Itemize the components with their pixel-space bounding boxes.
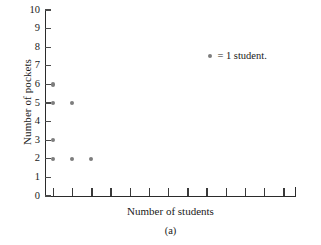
y-axis-tick-label: 1 [18, 172, 40, 183]
x-axis-tick [187, 188, 189, 196]
data-point [70, 157, 74, 161]
x-axis-tick [226, 188, 228, 196]
y-axis-tick [45, 102, 51, 103]
data-point [51, 101, 55, 105]
x-axis-tick [264, 188, 266, 196]
data-point [51, 82, 55, 86]
data-point [51, 138, 55, 142]
legend-dot-icon [208, 54, 212, 58]
y-axis-tick [45, 195, 51, 196]
y-axis-tick [45, 84, 51, 85]
data-point [51, 157, 55, 161]
figure-dot-plot: 012345678910 = 1 student. Number of pock… [0, 0, 321, 245]
y-axis-title: Number of pockets [21, 32, 33, 172]
y-axis-tick [45, 9, 51, 10]
y-axis-tick-label: 0 [18, 191, 40, 202]
x-axis-tick [206, 188, 208, 196]
x-axis-end-cap [295, 187, 296, 196]
data-point [89, 157, 93, 161]
x-axis-tick [283, 188, 285, 196]
y-axis-tick [45, 140, 51, 141]
x-axis-tick [53, 188, 55, 196]
y-axis-tick [45, 121, 51, 122]
x-axis-line [45, 196, 296, 198]
data-point [70, 101, 74, 105]
x-axis-tick [110, 188, 112, 196]
legend: = 1 student. [208, 50, 267, 61]
x-axis-tick [130, 188, 132, 196]
y-axis-tick [45, 158, 51, 159]
x-axis-tick [149, 188, 151, 196]
x-axis-tick [91, 188, 93, 196]
y-axis-tick [45, 47, 51, 48]
x-axis-title: Number of students [45, 205, 296, 217]
x-axis-tick [168, 188, 170, 196]
x-axis-tick [245, 188, 247, 196]
y-axis-tick [45, 28, 51, 29]
y-axis-tick [45, 177, 51, 178]
legend-label: = 1 student. [217, 50, 266, 61]
y-axis-tick-label: 10 [18, 5, 40, 16]
figure-caption: (a) [45, 225, 296, 236]
x-axis-tick [72, 188, 74, 196]
y-axis-tick [45, 65, 51, 66]
